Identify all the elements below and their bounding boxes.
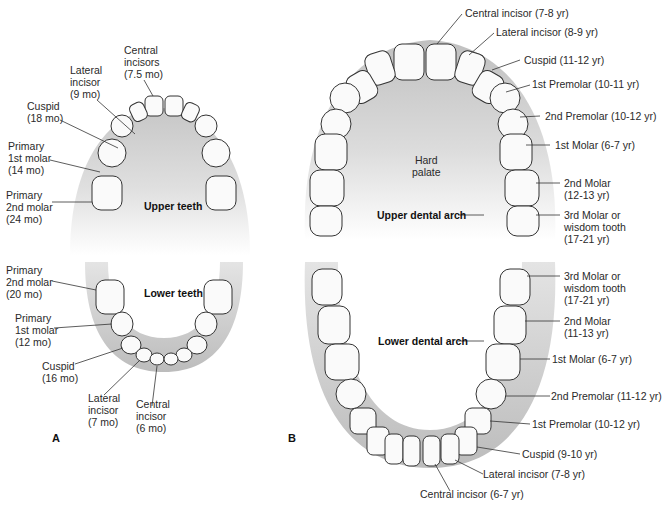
panel-b-letter: B	[288, 432, 296, 444]
label-a-lower-lateral-incisor: Lateral incisor (7 mo)	[88, 392, 120, 428]
label-a-lower-cuspid: Cuspid (16 mo)	[42, 360, 78, 384]
label-a-lateral-incisor: Lateral incisor (9 mo)	[70, 64, 102, 100]
label-b-lower-2nd-molar: 2nd Molar (11-13 yr)	[564, 315, 611, 339]
panel-b-lower-arch	[305, 262, 556, 468]
label-b-1st-molar: 1st Molar (6-7 yr)	[555, 139, 635, 151]
hard-palate-label: Hard palate	[412, 154, 441, 178]
label-b-lower-1st-premolar: 1st Premolar (10-12 yr)	[532, 418, 640, 430]
label-b-cuspid: Cuspid (11-12 yr)	[524, 54, 604, 66]
label-b-2nd-molar: 2nd Molar (12-13 yr)	[564, 177, 611, 201]
panel-a-lower-arch	[85, 262, 243, 372]
label-b-lower-2nd-premolar: 2nd Premolar (11-12 yr)	[551, 390, 662, 402]
lower-teeth-title: Lower teeth	[144, 287, 203, 299]
upper-dental-arch-title: Upper dental arch	[377, 209, 466, 221]
upper-teeth-title: Upper teeth	[144, 200, 202, 212]
label-a-primary-2nd-molar: Primary 2nd molar (24 mo)	[6, 189, 53, 225]
panel-a-letter: A	[52, 432, 60, 444]
label-a-lower-2nd-molar: Primary 2nd molar (20 mo)	[6, 264, 53, 300]
label-a-central-incisors: Central incisors (7.5 mo)	[124, 44, 163, 80]
label-b-lower-lateral-incisor: Lateral incisor (7-8 yr)	[483, 468, 585, 480]
label-a-lower-central-incisor: Central incisor (6 mo)	[136, 398, 170, 434]
label-b-lower-central-incisor: Central incisor (6-7 yr)	[420, 488, 524, 500]
label-b-lower-cuspid: Cuspid (9-10 yr)	[522, 448, 597, 460]
label-b-lower-3rd-molar: 3rd Molar or wisdom tooth (17-21 yr)	[564, 270, 626, 306]
label-a-cuspid: Cuspid (18 mo)	[27, 100, 63, 124]
lower-dental-arch-title: Lower dental arch	[378, 335, 468, 347]
panel-a-upper-arch	[70, 96, 250, 255]
label-b-lower-1st-molar: 1st Molar (6-7 yr)	[552, 353, 632, 365]
label-b-1st-premolar: 1st Premolar (10-11 yr)	[532, 78, 639, 90]
label-b-lateral-incisor: Lateral incisor (8-9 yr)	[496, 26, 598, 38]
label-b-central-incisor: Central incisor (7-8 yr)	[465, 7, 569, 19]
label-a-lower-1st-molar: Primary 1st molar (12 mo)	[15, 312, 58, 348]
label-b-2nd-premolar: 2nd Premolar (10-12 yr)	[545, 110, 656, 122]
label-a-primary-1st-molar: Primary 1st molar (14 mo)	[8, 140, 51, 176]
label-b-3rd-molar: 3rd Molar or wisdom tooth (17-21 yr)	[564, 209, 626, 245]
